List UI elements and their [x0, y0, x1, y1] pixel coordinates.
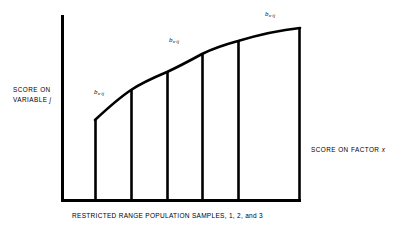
coefficient-label-2: bx·ij — [169, 37, 179, 44]
caption: RESTRICTED RANGE POPULATION SAMPLES, 1, … — [72, 211, 263, 221]
x-axis-variable: x — [382, 146, 385, 153]
coefficient-subscript-1: x·ij — [98, 91, 105, 96]
x-axis-label: SCORE ON FACTOR x — [311, 145, 385, 155]
y-axis-label-text: VARIABLE — [13, 96, 50, 103]
coefficient-symbol-1: b — [94, 88, 98, 96]
y-axis-variable: j — [50, 96, 51, 103]
coefficient-label-3: bx·ij — [265, 11, 275, 18]
regression-curve — [95, 28, 300, 120]
y-axis-label-line1: SCORE ON — [13, 85, 51, 95]
y-axis-label: SCORE ON VARIABLE j — [13, 85, 51, 104]
coefficient-subscript-3: x·ij — [269, 13, 276, 18]
coefficient-subscript-2: x·ij — [173, 39, 180, 44]
x-axis-label-text: SCORE ON FACTOR — [311, 146, 382, 153]
coefficient-symbol-2: b — [169, 36, 173, 44]
restricted-range-diagram — [0, 0, 401, 232]
coefficient-symbol-3: b — [265, 10, 269, 18]
coefficient-label-1: bx·ij — [94, 89, 104, 96]
figure-root: SCORE ON VARIABLE j SCORE ON FACTOR x RE… — [0, 0, 401, 232]
y-axis-label-line2: VARIABLE j — [13, 95, 51, 105]
